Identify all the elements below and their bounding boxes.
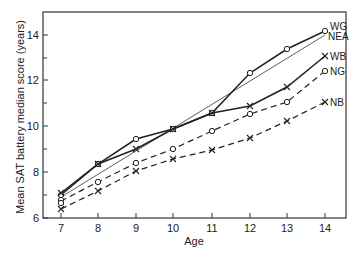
legend-label-wb: WB [330, 51, 346, 62]
x-tick-label: 8 [95, 222, 101, 234]
x-tick-label: 12 [244, 222, 256, 234]
y-tick-label: 14 [27, 29, 39, 41]
x-axis-ticks [61, 213, 325, 218]
y-tick-label: 10 [27, 120, 39, 132]
series-markers-wg [58, 28, 327, 197]
y-axis-tick-labels: 6 8 10 12 14 [27, 29, 39, 224]
y-tick-label: 6 [33, 212, 39, 224]
x-tick-label: 13 [281, 222, 293, 234]
series-line-nea [61, 35, 325, 197]
x-tick-label: 10 [167, 222, 179, 234]
x-axis-title: Age [184, 235, 204, 247]
x-tick-label: 11 [206, 222, 217, 234]
legend-label-nb: NB [330, 97, 344, 108]
line-chart: 6 8 10 12 14 7 8 9 10 11 12 13 14 Age Me… [0, 0, 361, 253]
x-tick-label: 9 [133, 222, 139, 234]
y-tick-label: 12 [27, 74, 39, 86]
x-axis-tick-labels: 7 8 9 10 11 12 13 14 [58, 222, 331, 234]
series-line-wg [61, 31, 325, 195]
series-markers-ng [58, 68, 327, 205]
y-tick-label: 8 [33, 166, 39, 178]
legend-label-nea: NEA [328, 31, 349, 42]
y-axis-title: Mean SAT battery median score (years) [14, 20, 26, 214]
legend-label-ng: NG [330, 66, 345, 77]
series-markers-wb [58, 53, 328, 196]
x-tick-label: 14 [319, 222, 331, 234]
y-axis-ticks [43, 35, 48, 218]
x-tick-label: 7 [58, 222, 64, 234]
